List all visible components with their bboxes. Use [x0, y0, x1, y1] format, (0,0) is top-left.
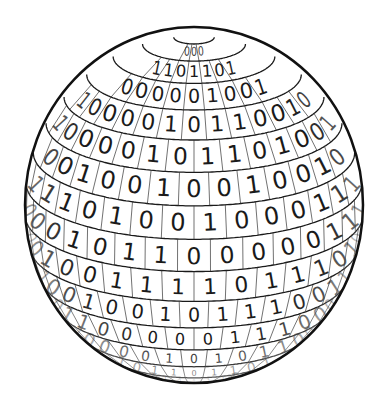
sphere-shading	[25, 27, 363, 383]
sphere-graphic: 0001101101000001001100001011001010000101…	[0, 0, 387, 408]
binary-sphere-illustration: 0001101101000001001100001011001010000101…	[0, 0, 387, 408]
